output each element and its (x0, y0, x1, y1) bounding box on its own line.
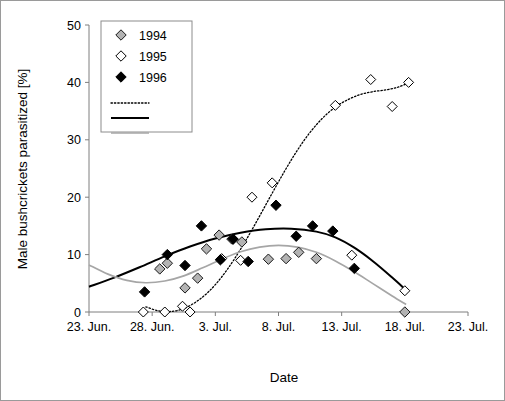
y-tick-label: 20 (67, 191, 81, 205)
y-axis: 01020304050 (67, 19, 89, 320)
scatter-chart: 01020304050 23. Jun.28. Jun.3. Jul.8. Ju… (1, 1, 505, 401)
x-tick-label: 18. Jul. (385, 320, 425, 334)
data-point-1994 (400, 307, 410, 317)
data-point-1994 (155, 264, 165, 274)
x-tick-label: 3. Jul. (199, 320, 232, 334)
data-point-1994 (281, 253, 291, 263)
data-point-1995 (404, 77, 414, 87)
data-point-1996 (271, 200, 281, 210)
x-tick-label: 28. Jun. (130, 320, 174, 334)
legend-label-1996: 1996 (139, 71, 167, 85)
data-point-1995 (247, 192, 257, 202)
data-point-1994 (192, 273, 202, 283)
data-point-1995 (185, 307, 195, 317)
x-tick-label: 23. Jun. (67, 320, 111, 334)
data-point-1995 (330, 100, 340, 110)
y-tick-label: 40 (67, 76, 81, 90)
data-point-1994 (237, 237, 247, 247)
legend[interactable]: 199419951996 (101, 21, 192, 133)
data-point-1994 (311, 253, 321, 263)
x-axis: 23. Jun.28. Jun.3. Jul.8. Jul.13. Jul.18… (67, 312, 488, 334)
data-point-1995 (138, 307, 148, 317)
y-tick-label: 10 (67, 248, 81, 262)
legend-label-1995: 1995 (139, 50, 167, 64)
data-point-1995 (366, 75, 376, 85)
figure-frame: 01020304050 23. Jun.28. Jun.3. Jul.8. Ju… (0, 0, 505, 401)
data-point-1996 (180, 260, 190, 270)
data-point-1995 (387, 102, 397, 112)
1994-gray-trend (89, 245, 406, 304)
data-point-1996 (196, 221, 206, 231)
data-point-1996 (162, 249, 172, 259)
y-tick-label: 30 (67, 133, 81, 147)
x-axis-title: Date (270, 370, 299, 385)
data-point-1994 (201, 244, 211, 254)
x-tick-label: 23. Jul. (448, 320, 488, 334)
x-tick-label: 8. Jul. (262, 320, 295, 334)
y-axis-title: Male bushcrickets parasitized [%] (15, 69, 30, 269)
legend-label-1994: 1994 (139, 29, 167, 43)
data-point-1995 (347, 250, 357, 260)
x-tick-label: 13. Jul. (322, 320, 362, 334)
y-tick-label: 50 (67, 19, 81, 33)
data-point-1996 (243, 256, 253, 266)
data-point-1994 (263, 254, 273, 264)
data-point-1995 (400, 286, 410, 296)
y-tick-label: 0 (74, 306, 81, 320)
data-point-1996 (139, 287, 149, 297)
data-point-1994 (180, 283, 190, 293)
data-point-1996 (349, 263, 359, 273)
data-point-1996 (291, 231, 301, 241)
data-point-1995 (160, 307, 170, 317)
